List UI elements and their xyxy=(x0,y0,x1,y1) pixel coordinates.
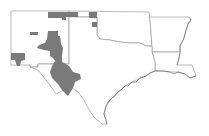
occurrence-nm-northeast xyxy=(69,12,78,17)
occurrence-ok-panhandle xyxy=(89,12,97,18)
occurrence-tx-panhandle xyxy=(92,22,97,27)
occurrence-north-central-nm xyxy=(30,32,38,35)
distribution-map xyxy=(0,0,209,136)
map-canvas xyxy=(0,0,209,136)
